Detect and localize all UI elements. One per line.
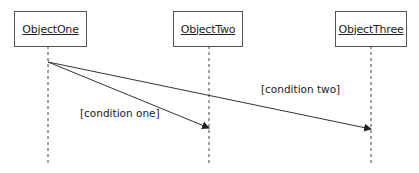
object-three-box: ObjectThree	[335, 11, 407, 47]
object-two-box: ObjectTwo	[173, 11, 243, 47]
guard-condition-two: [condition two]	[261, 83, 340, 95]
object-one-box: ObjectOne	[14, 11, 87, 47]
guard-condition-one: [condition one]	[80, 107, 160, 119]
object-three-label: ObjectThree	[338, 23, 403, 36]
object-two-label: ObjectTwo	[181, 23, 236, 36]
object-one-label: ObjectOne	[22, 23, 78, 36]
